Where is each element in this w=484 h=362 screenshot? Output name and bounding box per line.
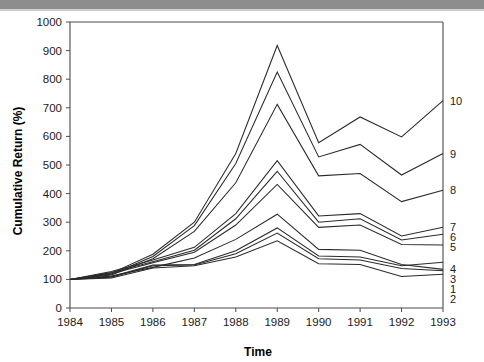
series-line-10 [70,45,443,279]
series-label-8: 8 [450,184,456,196]
x-tick-label: 1989 [264,316,290,328]
series-label-2: 2 [450,293,456,305]
y-tick-label: 600 [43,130,62,142]
x-tick-label: 1990 [306,316,332,328]
x-tick-label: 1986 [140,316,166,328]
y-tick-label: 500 [43,159,62,171]
x-axis-ticks: 1984198519861987198819891990199119921993 [57,308,456,328]
y-tick-label: 200 [43,245,62,257]
y-tick-label: 900 [43,45,62,57]
series-lines [70,45,443,279]
y-tick-label: 700 [43,102,62,114]
series-line-9 [70,72,443,279]
x-tick-label: 1985 [99,316,125,328]
y-axis-ticks: 01002003004005006007008009001000 [36,16,70,314]
series-label-5: 5 [450,241,456,253]
scan-artifact-band [0,0,484,9]
y-axis-title: Cumulative Return (%) [11,107,25,236]
series-label-9: 9 [450,148,456,160]
y-tick-label: 100 [43,273,62,285]
x-tick-label: 1991 [347,316,373,328]
chart-canvas: Cumulative Return (%) Time 0100200300400… [0,11,484,362]
y-tick-label: 0 [56,302,62,314]
x-tick-label: 1984 [57,316,83,328]
series-line-7 [70,161,443,280]
series-line-8 [70,104,443,279]
x-tick-label: 1992 [389,316,415,328]
x-tick-label: 1987 [182,316,208,328]
x-axis-title: Time [244,345,272,359]
y-tick-label: 300 [43,216,62,228]
line-chart: Cumulative Return (%) Time 0100200300400… [0,11,484,362]
y-tick-label: 800 [43,73,62,85]
x-tick-label: 1988 [223,316,249,328]
figure-container: Cumulative Return (%) Time 0100200300400… [0,0,484,362]
series-label-10: 10 [450,95,462,107]
y-tick-label: 1000 [36,16,62,28]
x-tick-label: 1993 [430,316,456,328]
series-end-labels: 10987654312 [450,95,462,306]
y-tick-label: 400 [43,188,62,200]
series-line-3 [70,228,443,279]
